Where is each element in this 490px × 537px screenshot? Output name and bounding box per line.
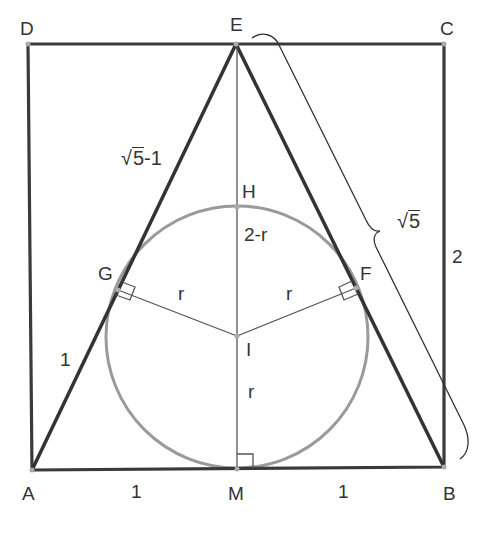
diagram-canvas [0, 0, 490, 537]
label-b: B [443, 484, 456, 503]
geometry-diagram: D E C A M B H I G F √5-1 √5 2-r r r r 1 … [0, 0, 490, 537]
label-d: D [20, 19, 34, 38]
label-eg-length: √5-1 [121, 147, 162, 169]
label-fi-length: r [286, 284, 292, 303]
label-gi-length: r [178, 284, 184, 303]
label-im-length: r [248, 382, 254, 401]
label-c: C [440, 19, 454, 38]
label-f: F [360, 264, 372, 283]
radicand: 5 [408, 210, 420, 232]
label-m: M [228, 484, 244, 503]
suffix: -1 [144, 147, 162, 169]
label-i: I [246, 340, 251, 359]
label-e: E [230, 15, 243, 34]
label-a: A [22, 484, 35, 503]
radius-if [237, 288, 356, 336]
label-h: H [242, 182, 256, 201]
radicand: 5 [132, 147, 144, 169]
sqrt-symbol: √ [121, 147, 132, 169]
point-markers [26, 42, 447, 473]
brace-eb [252, 34, 468, 459]
label-g: G [98, 264, 113, 283]
label-eb-length: √5 [397, 210, 420, 232]
sqrt-symbol: √ [397, 210, 408, 232]
label-am-length: 1 [131, 482, 142, 501]
label-ag-length: 1 [60, 350, 71, 369]
label-bc-length: 2 [452, 247, 463, 266]
label-mb-length: 1 [338, 482, 349, 501]
side-ae [32, 44, 236, 470]
label-hi-length: 2-r [244, 225, 267, 244]
side-be [236, 44, 444, 467]
